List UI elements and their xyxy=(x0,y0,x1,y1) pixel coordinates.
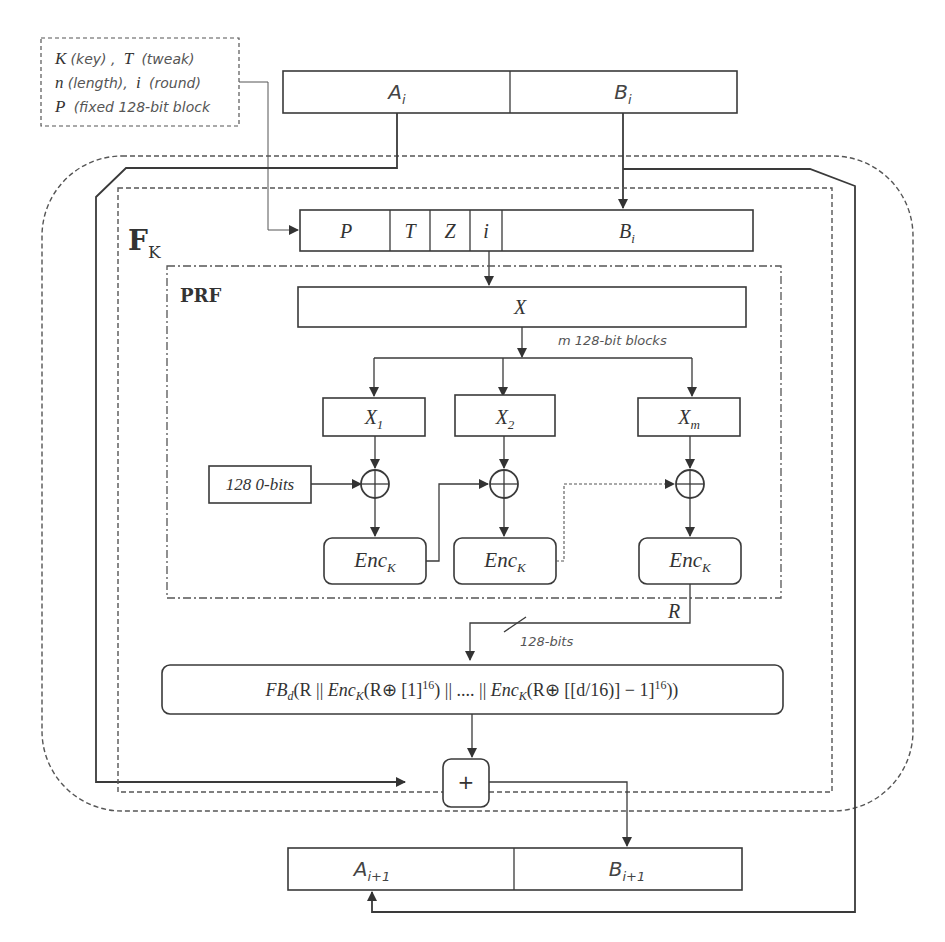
modular-add-box: + xyxy=(443,759,489,807)
legend-k: K xyxy=(54,49,68,68)
split-label: m 128-bit blocks xyxy=(558,333,667,348)
input-bar: Ai Bi xyxy=(283,71,737,113)
x-block-2: X2 xyxy=(455,395,555,436)
plus-icon: + xyxy=(458,770,475,794)
feistel-round-diagram: K (key) , T (tweak) n (length), i (round… xyxy=(0,0,945,942)
bits-label: 128-bits xyxy=(520,634,573,649)
x-block-m: Xm xyxy=(638,398,740,436)
parameter-legend: K (key) , T (tweak) n (length), i (round… xyxy=(41,38,239,126)
r-label: R xyxy=(667,600,680,622)
prf-label: PRF xyxy=(180,285,221,306)
output-bar: Ai+1 Bi+1 xyxy=(288,848,742,890)
tweak-input-bar: P T Z i Bi xyxy=(300,210,753,251)
enc-block-m: EncK xyxy=(639,538,741,584)
svg-text:K (key) , T: K (key) , T (tweak) xyxy=(54,49,195,68)
zero-bits-label: 128 0-bits xyxy=(226,475,295,494)
xor-icon-2 xyxy=(490,470,518,498)
svg-text:n (length), i: n (length), i (round) xyxy=(55,73,201,92)
fk-label: FK xyxy=(128,224,161,262)
fb-formula-box: FBd(R || EncK(R⊕ [1]16) || .... || EncK(… xyxy=(162,665,783,714)
svg-text:i: i xyxy=(483,220,489,242)
svg-text:P: P xyxy=(339,220,352,242)
x-label: X xyxy=(513,296,527,318)
svg-text:FBd(R || EncK(R⊕ [1]16) || ...: FBd(R || EncK(R⊕ [1]16) || .... || EncK(… xyxy=(265,678,679,703)
svg-text:Z: Z xyxy=(444,220,456,242)
svg-text:P (fixed 128-bit block: P (fixed 128-bit block xyxy=(54,97,211,116)
enc-block-2: EncK xyxy=(454,538,556,584)
xor-icon-m xyxy=(676,470,704,498)
xor-icon-1 xyxy=(361,470,389,498)
r-output-path xyxy=(470,584,690,660)
svg-text:T: T xyxy=(404,220,417,242)
bus-width-tick xyxy=(504,617,526,632)
enc-block-1: EncK xyxy=(324,538,426,584)
x-block-1: X1 xyxy=(323,398,425,436)
